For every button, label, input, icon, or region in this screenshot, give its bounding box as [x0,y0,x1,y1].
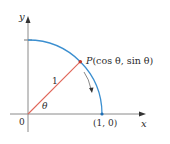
point-p-coords: (cos θ, sin θ) [92,55,153,66]
origin-label: 0 [19,118,25,127]
radius-line [28,62,80,114]
direction-arrow-icon [89,88,94,94]
point-one-zero-label: (1, 0) [93,119,117,128]
radius-label: 1 [52,77,58,86]
x-axis-label: x [141,119,147,129]
point-one-zero-marker [100,112,103,115]
point-p-marker [79,60,83,64]
point-p-label: P(cos θ, sin θ) [86,56,153,66]
angle-label: θ [42,102,47,111]
direction-arrow-line [84,72,91,89]
y-axis-label: y [19,12,25,22]
x-axis-arrow-icon [139,112,146,117]
unit-circle-diagram: y x 0 P(cos θ, sin θ) 1 θ (1, 0) [0,0,170,144]
y-axis-arrow-icon [26,16,31,23]
